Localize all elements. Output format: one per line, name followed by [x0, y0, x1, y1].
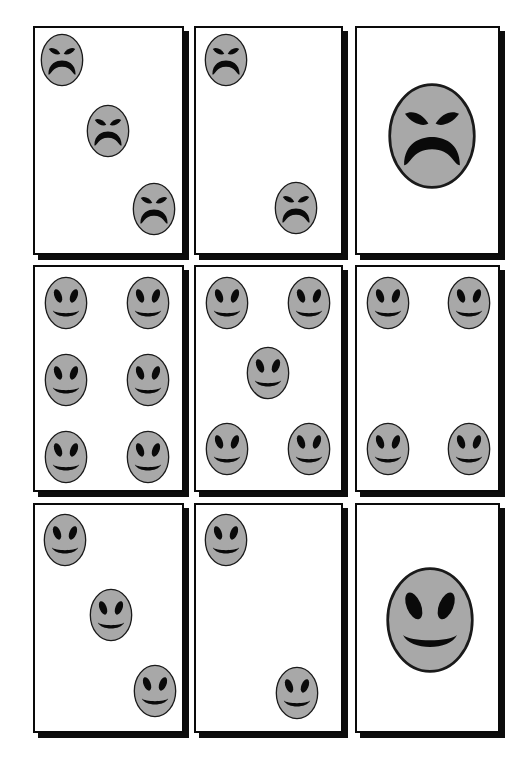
face-head-oval	[448, 423, 489, 474]
happy-face-icon	[287, 276, 331, 330]
panel-canvas	[357, 505, 498, 731]
panel-canvas	[196, 505, 341, 731]
angry-face-icon	[132, 182, 176, 236]
stimulus-panel[interactable]	[33, 503, 184, 733]
happy-face-icon	[366, 422, 410, 476]
face-head-oval	[288, 423, 329, 474]
face-head-oval	[276, 667, 317, 718]
happy-face-icon	[126, 353, 170, 407]
happy-face-icon	[205, 422, 249, 476]
happy-face-icon	[447, 276, 491, 330]
happy-face-icon	[385, 566, 475, 674]
stimulus-panel[interactable]	[194, 26, 343, 255]
face-head-oval	[390, 85, 475, 188]
stimulus-panel[interactable]	[194, 503, 343, 733]
face-head-oval	[44, 514, 85, 565]
face-head-oval	[45, 431, 86, 482]
face-head-oval	[206, 277, 247, 328]
angry-face-icon	[40, 33, 84, 87]
angry-face-icon	[86, 104, 130, 158]
stimulus-panel[interactable]	[355, 265, 500, 492]
stimulus-panel[interactable]	[194, 265, 343, 492]
stimulus-panel[interactable]	[355, 26, 500, 255]
face-head-oval	[87, 105, 128, 156]
stimulus-panel[interactable]	[33, 265, 184, 492]
happy-face-icon	[366, 276, 410, 330]
face-head-oval	[388, 569, 473, 672]
panel-canvas	[196, 267, 341, 490]
face-head-oval	[90, 589, 131, 640]
panel-canvas	[357, 28, 498, 253]
face-stimulus-grid	[0, 0, 529, 761]
happy-face-icon	[44, 276, 88, 330]
happy-face-icon	[89, 588, 133, 642]
face-head-oval	[247, 347, 288, 398]
angry-face-icon	[274, 181, 318, 235]
face-head-oval	[448, 277, 489, 328]
angry-face-icon	[387, 82, 477, 190]
face-head-oval	[133, 183, 174, 234]
happy-face-icon	[287, 422, 331, 476]
face-head-oval	[275, 182, 316, 233]
face-head-oval	[367, 423, 408, 474]
happy-face-icon	[133, 664, 177, 718]
face-head-oval	[288, 277, 329, 328]
face-head-oval	[134, 665, 175, 716]
face-head-oval	[127, 277, 168, 328]
panel-canvas	[35, 28, 182, 253]
happy-face-icon	[204, 513, 248, 567]
panel-canvas	[35, 505, 182, 731]
angry-face-icon	[204, 33, 248, 87]
face-head-oval	[41, 34, 82, 85]
stimulus-panel[interactable]	[33, 26, 184, 255]
happy-face-icon	[275, 666, 319, 720]
face-head-oval	[205, 34, 246, 85]
face-head-oval	[205, 514, 246, 565]
happy-face-icon	[205, 276, 249, 330]
face-head-oval	[127, 431, 168, 482]
happy-face-icon	[43, 513, 87, 567]
happy-face-icon	[44, 353, 88, 407]
face-head-oval	[206, 423, 247, 474]
happy-face-icon	[44, 430, 88, 484]
face-head-oval	[127, 354, 168, 405]
panel-canvas	[357, 267, 498, 490]
face-head-oval	[367, 277, 408, 328]
happy-face-icon	[447, 422, 491, 476]
face-head-oval	[45, 354, 86, 405]
panel-canvas	[35, 267, 182, 490]
happy-face-icon	[126, 430, 170, 484]
happy-face-icon	[246, 346, 290, 400]
happy-face-icon	[126, 276, 170, 330]
face-head-oval	[45, 277, 86, 328]
panel-canvas	[196, 28, 341, 253]
stimulus-panel[interactable]	[355, 503, 500, 733]
